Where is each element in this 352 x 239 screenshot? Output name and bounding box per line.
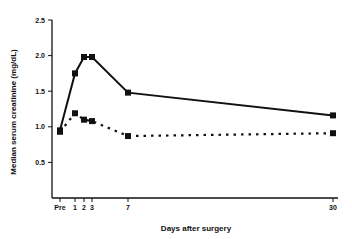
x-tick-label: 2 — [82, 204, 86, 211]
data-point-marker — [81, 54, 87, 60]
data-point-marker — [89, 54, 95, 60]
x-tick-label: 3 — [90, 204, 94, 211]
y-tick-label: 0.5 — [35, 159, 45, 166]
x-axis-ticks: Pre123730 — [54, 198, 337, 211]
x-axis-label: Days after surgery — [161, 224, 232, 233]
x-tick-label: 7 — [126, 204, 130, 211]
y-tick-label: 1.0 — [35, 123, 45, 130]
y-axis-ticks: 0.51.01.52.02.5 — [35, 17, 52, 166]
x-tick-label: Pre — [54, 204, 65, 211]
data-point-marker — [125, 133, 131, 139]
data-point-marker — [72, 110, 78, 116]
data-point-marker — [81, 117, 87, 123]
y-tick-label: 2.5 — [35, 17, 45, 24]
data-point-marker — [72, 70, 78, 76]
data-point-marker — [330, 130, 336, 136]
y-tick-label: 1.5 — [35, 88, 45, 95]
line-chart: 0.51.01.52.02.5 Pre123730 Days after sur… — [0, 0, 352, 239]
data-point-marker — [89, 118, 95, 124]
data-series — [57, 54, 336, 139]
data-point-marker — [330, 112, 336, 118]
data-point-marker — [125, 90, 131, 96]
data-point-marker — [57, 129, 63, 135]
axes — [52, 20, 338, 198]
y-tick-label: 2.0 — [35, 52, 45, 59]
x-tick-label: 30 — [329, 204, 337, 211]
y-axis-label: Median serum creatinine (mg/dL) — [9, 49, 18, 175]
x-tick-label: 1 — [73, 204, 77, 211]
